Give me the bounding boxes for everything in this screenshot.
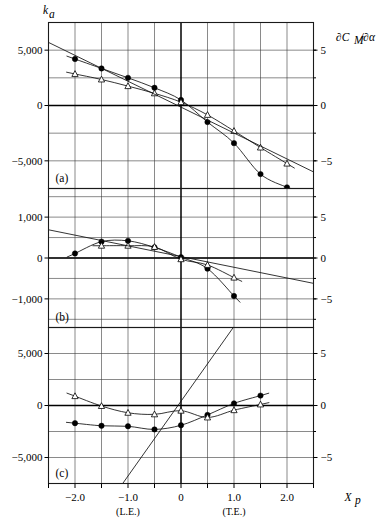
y-tick-label-left: 1,000 bbox=[18, 211, 43, 223]
figure-container: 5,0000−5,00050−5(a)1,0000−1,00050−5(b)5,… bbox=[0, 0, 384, 525]
panel-c bbox=[45, 326, 318, 483]
data-point-filled-circle bbox=[125, 75, 130, 80]
y-tick-label-right: −5 bbox=[321, 155, 333, 167]
y-tick-label-left: 0 bbox=[37, 399, 43, 411]
y-tick-label-right: 0 bbox=[321, 252, 327, 264]
y-tick-label-right: 5 bbox=[321, 211, 327, 223]
y-tick-label-left: 5,000 bbox=[18, 44, 43, 56]
x-tick-label: −1.0 bbox=[118, 491, 138, 503]
series-open-triangles-curve bbox=[102, 246, 235, 278]
y-tick-label-left: −5,000 bbox=[12, 155, 43, 167]
data-point-filled-circle bbox=[231, 140, 236, 145]
svg-text:∂C: ∂C bbox=[336, 31, 350, 43]
y-tick-label-right: 0 bbox=[321, 99, 327, 111]
data-point-open-triangle bbox=[204, 112, 210, 118]
y-tick-label-right: 5 bbox=[321, 347, 327, 359]
data-point-filled-circle bbox=[72, 56, 77, 61]
svg-text:X: X bbox=[343, 491, 352, 503]
svg-text:p: p bbox=[354, 494, 361, 507]
y-tick-label-left: −5,000 bbox=[12, 451, 43, 463]
y-tick-label-right: −5 bbox=[321, 293, 333, 305]
x-tick-sublabel: (T.E.) bbox=[222, 506, 245, 518]
data-point-filled-circle bbox=[125, 424, 130, 429]
panel-label-c: (c) bbox=[56, 467, 69, 480]
y-tick-label-left: 5,000 bbox=[18, 347, 43, 359]
panel-label-b: (b) bbox=[56, 311, 70, 324]
y-tick-label-left: 0 bbox=[37, 252, 43, 264]
y-axis-right-title: ∂CM/∂α bbox=[336, 31, 376, 46]
y-tick-label-right: −5 bbox=[321, 451, 333, 463]
y-axis-left-title: ka bbox=[43, 4, 55, 20]
data-point-filled-circle bbox=[99, 423, 104, 428]
y-tick-label-right: 5 bbox=[321, 44, 327, 56]
panel-a bbox=[45, 23, 318, 192]
aerodynamic-coefficients-chart: 5,0000−5,00050−5(a)1,0000−1,00050−5(b)5,… bbox=[0, 0, 384, 525]
data-point-filled-circle bbox=[72, 251, 77, 256]
data-point-filled-circle bbox=[178, 423, 183, 428]
y-tick-label-left: −1,000 bbox=[12, 293, 43, 305]
svg-text:k: k bbox=[43, 4, 49, 16]
y-tick-label-right: 0 bbox=[321, 399, 327, 411]
data-point-open-triangle bbox=[231, 128, 237, 134]
svg-text:a: a bbox=[49, 8, 55, 20]
y-tick-label-left: 0 bbox=[37, 99, 43, 111]
data-point-filled-circle bbox=[231, 293, 236, 298]
data-point-filled-circle bbox=[152, 427, 157, 432]
panel-b bbox=[45, 189, 318, 328]
x-tick-label: 1.0 bbox=[227, 491, 241, 503]
panel-label-a: (a) bbox=[56, 172, 69, 185]
x-tick-label: 2.0 bbox=[280, 491, 294, 503]
x-tick-label: −2.0 bbox=[65, 491, 85, 503]
data-point-filled-circle bbox=[72, 420, 77, 425]
data-point-filled-circle bbox=[231, 401, 236, 406]
x-axis-title: Xp bbox=[343, 491, 361, 508]
data-point-open-triangle bbox=[231, 274, 237, 280]
data-point-filled-circle bbox=[258, 171, 263, 176]
x-tick-sublabel: (L.E.) bbox=[116, 506, 140, 518]
x-tick-label: 0 bbox=[178, 491, 184, 503]
data-point-open-triangle bbox=[284, 160, 290, 166]
svg-text:/∂α: /∂α bbox=[359, 31, 376, 43]
data-point-filled-circle bbox=[258, 393, 263, 398]
